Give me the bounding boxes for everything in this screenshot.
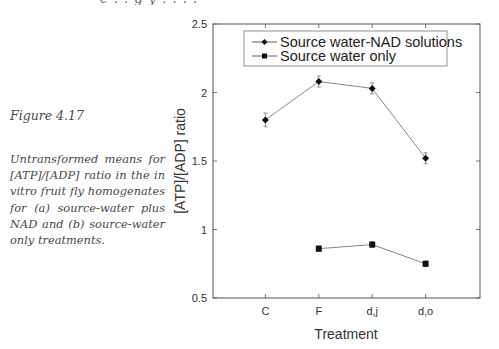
y-axis-label: [ATP]/[ADP] ratio <box>172 108 188 214</box>
data-point-diamond <box>262 116 269 123</box>
x-tick-label: F <box>315 305 322 317</box>
data-point-diamond <box>315 78 322 85</box>
y-tick-label: 0.5 <box>192 292 207 304</box>
x-axis-label: Treatment <box>314 326 377 342</box>
data-point-square <box>316 246 322 252</box>
series-line <box>265 82 425 159</box>
y-tick-label: 2.5 <box>192 18 207 30</box>
data-point-square <box>369 242 375 248</box>
y-tick-label: 1.5 <box>192 155 207 167</box>
data-point-square <box>423 261 429 267</box>
x-tick-label: C <box>261 305 269 317</box>
square-marker-icon <box>262 54 267 59</box>
x-tick-label: d,o <box>418 305 433 317</box>
line-chart: 0.511.522.5CFd,jd,o [ATP]/[ADP] ratio Tr… <box>0 0 499 349</box>
legend-label-water-only: Source water only <box>280 48 397 64</box>
legend: Source water-NAD solutions Source water … <box>244 31 462 66</box>
x-tick-label: d,j <box>366 305 378 317</box>
y-tick-label: 2 <box>201 87 207 99</box>
y-tick-label: 1 <box>201 224 207 236</box>
